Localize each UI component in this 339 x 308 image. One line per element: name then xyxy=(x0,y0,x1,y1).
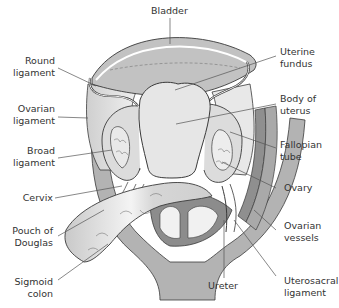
label-ureter: Ureter xyxy=(208,280,238,292)
label-ovary: Ovary xyxy=(284,182,312,194)
label-round-ligament: Round ligament xyxy=(13,55,55,78)
uterus xyxy=(139,82,210,178)
label-uterosacral-ligament: Uterosacral ligament xyxy=(284,275,338,298)
label-fallopian-tube: Fallopian tube xyxy=(280,139,322,162)
label-uterine-fundus: Uterine fundus xyxy=(280,46,315,69)
label-cervix: Cervix xyxy=(23,192,53,204)
label-broad-ligament: Broad ligament xyxy=(13,145,55,168)
label-sigmoid-colon: Sigmoid colon xyxy=(15,276,53,299)
label-ovarian-vessels: Ovarian vessels xyxy=(284,220,321,243)
label-ovarian-ligament: Ovarian ligament xyxy=(13,103,55,126)
label-bladder: Bladder xyxy=(151,5,188,17)
label-body-of-uterus: Body of uterus xyxy=(280,93,316,116)
label-pouch-of-douglas: Pouch of Douglas xyxy=(12,225,53,248)
